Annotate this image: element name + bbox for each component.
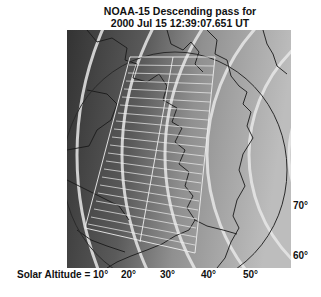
solar-altitude-label-70: 70°	[293, 200, 308, 211]
solar-altitude-label-40: 40°	[201, 269, 216, 280]
solar-altitude-label-10: Solar Altitude = 10°	[17, 269, 108, 280]
solar-altitude-label-30: 30°	[160, 269, 175, 280]
solar-altitude-prefix: Solar Altitude =	[17, 269, 93, 280]
solar-altitude-label-60: 60°	[293, 250, 308, 261]
satellite-pass-map	[67, 30, 291, 268]
solar-altitude-label-20: 20°	[121, 269, 136, 280]
map-title-line2: 2000 Jul 15 12:39:07.651 UT	[60, 17, 300, 30]
solar-altitude-label-50: 50°	[243, 269, 258, 280]
